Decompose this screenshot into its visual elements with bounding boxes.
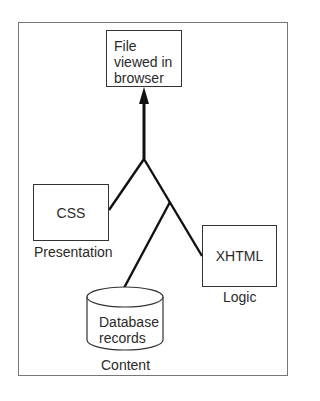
output-text-line-1: File xyxy=(114,38,181,54)
output-text-line-2: viewed in xyxy=(114,54,181,70)
database-caption: Content xyxy=(101,357,150,373)
xhtml-node-text: XHTML xyxy=(216,248,263,264)
output-text-line-3: browser xyxy=(114,70,181,86)
database-node: Database records xyxy=(99,314,159,346)
css-node-text: CSS xyxy=(57,205,86,221)
xhtml-node: XHTML xyxy=(202,225,277,287)
xhtml-caption: Logic xyxy=(223,289,256,305)
edge-xhtml xyxy=(144,159,202,256)
css-caption: Presentation xyxy=(34,244,113,260)
arrowhead-icon xyxy=(139,87,149,104)
edge-css xyxy=(109,159,144,210)
database-text-line-2: records xyxy=(99,330,159,346)
edge-database xyxy=(124,202,170,288)
css-node: CSS xyxy=(33,184,109,241)
database-text-line-1: Database xyxy=(99,314,159,330)
output-node: File viewed in browser xyxy=(106,30,182,87)
